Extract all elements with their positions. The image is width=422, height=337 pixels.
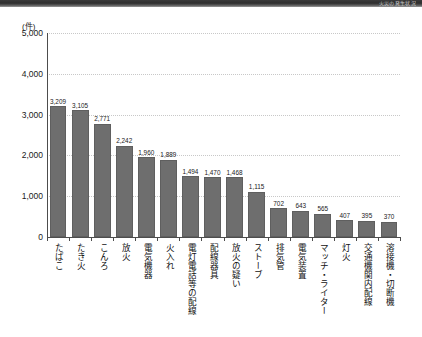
- x-axis-category-label-text: 電気機器: [142, 243, 151, 279]
- bar-chart-figure: (件) 01,0002,0003,0004,0005,000 3,2093,10…: [0, 7, 422, 337]
- x-axis-category-label-text: 火入れ: [164, 243, 173, 270]
- bar-item[interactable]: 1,494: [179, 33, 201, 237]
- x-axis-category-label: 放火の疑い: [224, 243, 246, 292]
- bar-rect[interactable]: [116, 146, 133, 237]
- x-axis-category-label-text: たき火: [76, 243, 85, 270]
- x-axis-category-label-text: 放火: [120, 243, 129, 261]
- x-axis-tick: [47, 237, 48, 241]
- bar-item[interactable]: 407: [334, 33, 356, 237]
- bar-rect[interactable]: [248, 192, 265, 237]
- bar-rect[interactable]: [50, 106, 67, 237]
- bar-item[interactable]: 2,242: [113, 33, 135, 237]
- bar-rect[interactable]: [270, 208, 287, 237]
- x-axis-category-label-text: 電気装置: [296, 243, 305, 279]
- x-axis-tick: [201, 237, 202, 241]
- x-axis-tick: [356, 237, 357, 241]
- x-axis-tick: [378, 237, 379, 241]
- x-axis-tick: [246, 237, 247, 241]
- x-axis-category-label: 灯火: [334, 243, 356, 265]
- bar-item[interactable]: 3,105: [69, 33, 91, 237]
- x-axis-tick: [135, 237, 136, 241]
- page-header-band: 火災の発生状況: [0, 0, 422, 7]
- x-axis-category-label: こんろ: [91, 243, 113, 274]
- x-axis-category-label-text: 電灯電話等の配線: [186, 243, 195, 315]
- bar-rect[interactable]: [72, 110, 89, 237]
- x-axis-category-labels: たばこたき火こんろ放火電気機器火入れ電灯電話等の配線配線器具放火の疑いストーブ排…: [47, 243, 400, 337]
- bar-rect[interactable]: [204, 177, 221, 237]
- bar-rect[interactable]: [138, 157, 155, 237]
- x-axis-category-label: たばこ: [47, 243, 69, 274]
- x-axis-category-label: 電灯電話等の配線: [179, 243, 201, 319]
- x-axis-category-label: 火入れ: [157, 243, 179, 274]
- x-axis-category-label: 電気装置: [290, 243, 312, 283]
- bar-item[interactable]: 2,771: [91, 33, 113, 237]
- y-axis-tick-label: 5,000: [3, 28, 43, 38]
- x-axis-tick: [224, 237, 225, 241]
- bar-rect[interactable]: [336, 220, 353, 237]
- x-axis-tick: [268, 237, 269, 241]
- y-axis-tick-labels: 01,0002,0003,0004,0005,000: [0, 33, 43, 237]
- bar-item[interactable]: 395: [356, 33, 378, 237]
- x-axis-category-label-text: 交通機関内配線: [363, 243, 372, 306]
- x-axis-category-label-text: こんろ: [98, 243, 107, 270]
- bar-rect[interactable]: [182, 176, 199, 237]
- x-axis-tick: [69, 237, 70, 241]
- x-axis-category-label: 排気管: [268, 243, 290, 274]
- x-axis-category-label-text: 放火の疑い: [230, 243, 239, 288]
- x-axis-category-label-text: マッチ・ライター: [318, 243, 327, 315]
- bar-item[interactable]: 1,960: [135, 33, 157, 237]
- x-axis-tick: [334, 237, 335, 241]
- x-axis-tick: [91, 237, 92, 241]
- x-axis-category-label-text: たばこ: [54, 243, 63, 270]
- bar-rect[interactable]: [292, 211, 309, 237]
- x-axis-category-label: 電気機器: [135, 243, 157, 283]
- x-axis-category-label: 配線器具: [201, 243, 223, 283]
- bar-item[interactable]: 1,889: [157, 33, 179, 237]
- x-axis-category-label: 放火: [113, 243, 135, 265]
- x-axis-category-label-text: 溶接機・切断機: [385, 243, 394, 306]
- page-header-band-text: 火災の発生状況: [379, 0, 416, 7]
- bar-item[interactable]: 1,470: [201, 33, 223, 237]
- x-axis-category-label: 交通機関内配線: [356, 243, 378, 310]
- y-axis-tick-label: 2,000: [3, 150, 43, 160]
- x-axis-category-label: マッチ・ライター: [312, 243, 334, 319]
- bar-value-label: 370: [372, 213, 406, 220]
- x-axis-tick: [179, 237, 180, 241]
- x-axis-category-label: たき火: [69, 243, 91, 274]
- bar-rect[interactable]: [381, 222, 398, 237]
- x-axis-category-label: 溶接機・切断機: [378, 243, 400, 310]
- x-axis-category-label: ストーブ: [246, 243, 268, 283]
- x-axis-category-label-text: 配線器具: [208, 243, 217, 279]
- x-axis-category-label-text: 灯火: [340, 243, 349, 261]
- y-axis-tick-label: 1,000: [3, 191, 43, 201]
- bar-item[interactable]: 370: [378, 33, 400, 237]
- bar-series: 3,2093,1052,7712,2421,9601,8891,4941,470…: [47, 33, 400, 237]
- bar-item[interactable]: 3,209: [47, 33, 69, 237]
- x-axis-tick: [113, 237, 114, 241]
- bar-item[interactable]: 1,468: [224, 33, 246, 237]
- x-axis-tick-marks: [47, 237, 401, 242]
- x-axis-tick: [400, 237, 401, 241]
- y-axis-tick-label: 4,000: [3, 69, 43, 79]
- y-axis-tick-label: 0: [3, 232, 43, 242]
- y-axis-tick-label: 3,000: [3, 110, 43, 120]
- x-axis-tick: [290, 237, 291, 241]
- bar-item[interactable]: 565: [312, 33, 334, 237]
- x-axis-tick: [312, 237, 313, 241]
- x-axis-category-label-text: ストーブ: [252, 243, 261, 279]
- x-axis-tick: [157, 237, 158, 241]
- x-axis-category-label-text: 排気管: [274, 243, 283, 270]
- bar-rect[interactable]: [358, 221, 375, 237]
